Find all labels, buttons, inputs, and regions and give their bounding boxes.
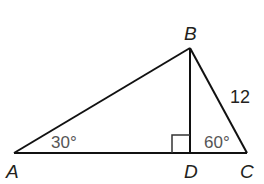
vertex-label-c: C (240, 161, 254, 182)
angle-label-c: 60° (204, 133, 230, 152)
vertex-label-a: A (5, 161, 19, 182)
vertex-label-d: D (184, 161, 198, 182)
vertex-label-b: B (184, 23, 197, 44)
angle-label-a: 30° (51, 133, 77, 152)
side-label-bc: 12 (230, 87, 250, 107)
triangle-diagram: B A D C 30° 60° 12 (0, 0, 264, 184)
right-angle-marker-icon (172, 135, 190, 153)
segment-ab (14, 48, 190, 153)
